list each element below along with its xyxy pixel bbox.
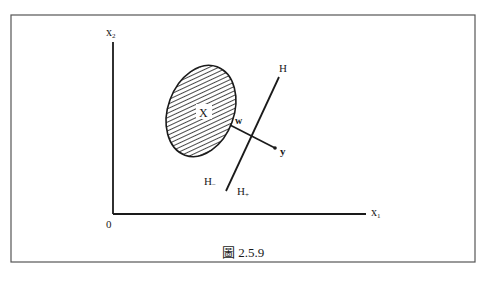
diagram-canvas: x2 x1 0 X H H− H+ w y 圖 2.5.9 (0, 0, 484, 281)
segment-w-y (230, 125, 275, 148)
h-minus-label: H− (204, 175, 216, 189)
hyperplane-label: H (279, 62, 287, 74)
figure-frame (11, 15, 475, 262)
y-axis-label: x2 (106, 25, 116, 40)
point-y-label: y (280, 145, 286, 157)
set-label: X (199, 106, 208, 120)
h-plus-label: H+ (237, 185, 249, 199)
origin-label: 0 (106, 218, 112, 230)
figure-caption: 圖 2.5.9 (222, 245, 264, 260)
point-y (273, 146, 277, 150)
x-axis-label: x1 (371, 205, 381, 220)
point-w-label: w (235, 115, 243, 126)
